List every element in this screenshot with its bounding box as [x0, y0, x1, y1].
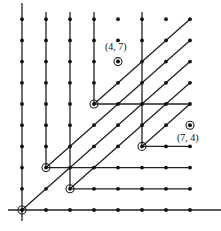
lattice-dot — [188, 39, 192, 43]
lattice-dot — [140, 60, 144, 64]
lattice-dot — [20, 39, 24, 43]
lattice-dot — [44, 166, 48, 170]
lattice-dot — [164, 39, 168, 43]
lattice-dot — [20, 60, 24, 64]
lattice-dot — [140, 102, 144, 106]
point-label: (4, 7) — [105, 41, 127, 53]
lattice-dot — [116, 145, 120, 149]
lattice-dot — [68, 102, 72, 106]
lattice-dot — [140, 166, 144, 170]
lattice-dot — [116, 102, 120, 106]
lattice-dot — [116, 17, 120, 21]
lattice-dot — [92, 39, 96, 43]
lattice-dot — [20, 166, 24, 170]
lattice-dot — [140, 123, 144, 127]
lattice-dot — [44, 102, 48, 106]
lattice-dot — [44, 60, 48, 64]
lattice-dot — [92, 145, 96, 149]
lattice-dot — [188, 187, 192, 191]
lattice-path-diagram: (4, 7)(7, 4) — [0, 0, 221, 231]
lattice-dot — [164, 145, 168, 149]
lattice-dot — [20, 145, 24, 149]
lattice-dot — [20, 102, 24, 106]
lattice-dot — [20, 208, 24, 212]
lattice-dot — [92, 187, 96, 191]
lattice-dot — [164, 102, 168, 106]
lattice-dot — [92, 60, 96, 64]
point-label: (7, 4) — [177, 132, 199, 144]
lattice-dot — [92, 81, 96, 85]
lattice-dot — [68, 208, 72, 212]
lattice-dot — [116, 166, 120, 170]
lattice-dot — [44, 208, 48, 212]
marked-point — [188, 123, 192, 127]
lattice-dot — [20, 81, 24, 85]
lattice-dot — [44, 123, 48, 127]
lattice-dot — [44, 39, 48, 43]
lattice-dot — [116, 208, 120, 212]
lattice-dot — [140, 145, 144, 149]
lattice-dot — [116, 187, 120, 191]
lattice-dot — [164, 166, 168, 170]
lattice-dot — [20, 123, 24, 127]
lattice-dot — [188, 17, 192, 21]
lattice-dot — [92, 17, 96, 21]
lattice-dot — [92, 208, 96, 212]
lattice-dot — [44, 81, 48, 85]
lattice-dot — [140, 81, 144, 85]
lattice-dot — [140, 17, 144, 21]
diagonal-segment — [70, 83, 190, 189]
lattice-dot — [140, 187, 144, 191]
lattice-dot — [164, 208, 168, 212]
lattice-dot — [68, 145, 72, 149]
lattice-dot — [92, 123, 96, 127]
lattice-dot — [140, 39, 144, 43]
lattice-dot — [44, 145, 48, 149]
lattice-dot — [68, 187, 72, 191]
lattice-dot — [188, 145, 192, 149]
lattice-dot — [164, 60, 168, 64]
marked-points: (4, 7)(7, 4) — [105, 41, 199, 145]
lattice-dot — [68, 17, 72, 21]
lattice-dot — [164, 17, 168, 21]
lattice-dot — [92, 102, 96, 106]
lattice-dot — [164, 187, 168, 191]
lattice-dot — [188, 208, 192, 212]
lattice-dot — [20, 187, 24, 191]
lattice-dot — [44, 17, 48, 21]
lattice-dot — [44, 187, 48, 191]
lattice-dot — [68, 60, 72, 64]
lattice-dot — [68, 81, 72, 85]
lattice-dot — [188, 102, 192, 106]
lattice-dot — [188, 166, 192, 170]
lattice-dot — [188, 60, 192, 64]
lattice-dot — [140, 208, 144, 212]
lattice-dot — [116, 123, 120, 127]
lattice-dot — [188, 81, 192, 85]
marked-point — [116, 60, 120, 64]
lattice-dot — [68, 123, 72, 127]
lattice-dot — [164, 123, 168, 127]
lattice-dot — [164, 81, 168, 85]
lattice-dot — [92, 166, 96, 170]
lattice-dot — [68, 166, 72, 170]
lattice-dot — [20, 17, 24, 21]
lattice-dot — [116, 81, 120, 85]
lattice-dot — [68, 39, 72, 43]
